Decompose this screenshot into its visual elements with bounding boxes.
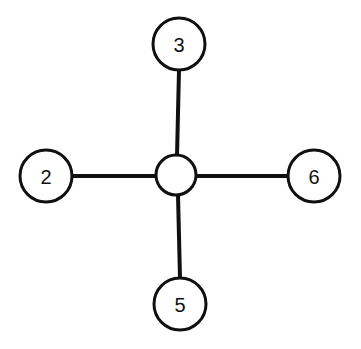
node-bottom[interactable]: 5 [154,278,206,330]
node-right[interactable]: 6 [288,150,340,202]
diagram-canvas: 3 2 6 5 [0,0,361,349]
node-center[interactable] [156,155,196,195]
node-center-circle[interactable] [156,155,196,195]
edge-center-top [177,70,179,156]
node-top-label: 3 [173,34,184,56]
node-top[interactable]: 3 [153,18,205,70]
node-bottom-label: 5 [174,294,185,316]
edge-center-bottom [178,195,180,278]
star-graph-svg: 3 2 6 5 [0,0,361,349]
node-right-label: 6 [308,166,319,188]
node-left-label: 2 [40,166,51,188]
node-group: 3 2 6 5 [20,18,340,330]
node-left[interactable]: 2 [20,150,72,202]
